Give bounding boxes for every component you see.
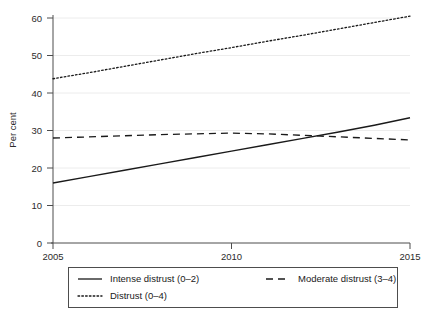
legend-item-moderate-distrust: Moderate distrust (3–4)	[265, 272, 396, 286]
chart-legend: Intense distrust (0–2) Moderate distrust…	[68, 267, 398, 308]
y-axis-ticks	[47, 18, 53, 243]
x-axis-ticks	[53, 243, 410, 249]
legend-item-distrust: Distrust (0–4)	[77, 289, 167, 303]
legend-label-moderate-distrust: Moderate distrust (3–4)	[298, 273, 396, 285]
y-tick-label-50: 50	[31, 50, 42, 61]
series-line-moderate-distrust	[53, 133, 410, 140]
series-line-intense-distrust	[53, 118, 410, 183]
legend-key-solid-icon	[77, 273, 103, 285]
y-axis-title: Per cent	[7, 112, 18, 148]
y-tick-label-10: 10	[31, 200, 42, 211]
series-line-distrust	[53, 16, 410, 79]
x-tick-label-2015: 2015	[399, 251, 420, 260]
y-tick-label-60: 60	[31, 13, 42, 24]
legend-label-distrust: Distrust (0–4)	[110, 290, 167, 302]
y-tick-label-0: 0	[37, 238, 42, 249]
legend-label-intense-distrust: Intense distrust (0–2)	[110, 273, 199, 285]
y-tick-label-30: 30	[31, 125, 42, 136]
x-tick-label-2010: 2010	[221, 251, 242, 260]
y-tick-label-40: 40	[31, 88, 42, 99]
gridlines	[53, 18, 410, 206]
y-tick-label-20: 20	[31, 163, 42, 174]
chart-figure: 60 50 40 30 20 10 0 2005 2010 2015 Per c…	[0, 0, 422, 317]
x-tick-label-2005: 2005	[42, 251, 63, 260]
legend-key-dashed-icon	[265, 273, 291, 285]
legend-key-dotted-icon	[77, 290, 103, 302]
legend-item-intense-distrust: Intense distrust (0–2)	[77, 272, 199, 286]
line-chart-plot: 60 50 40 30 20 10 0 2005 2010 2015 Per c…	[0, 0, 422, 260]
